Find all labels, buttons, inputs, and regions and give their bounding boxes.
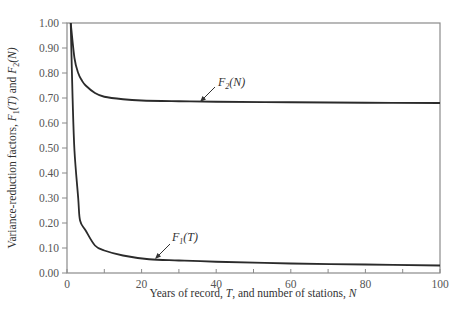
y-tick-label: 0.30 [39,192,59,204]
f1-annotation: F1(T) [155,230,198,259]
y-tick-label: 0.50 [39,142,59,154]
y-axis-label: Variance-reduction factors, F1(T) and F2… [6,47,21,248]
y-tick-label: 0.90 [39,42,59,54]
y-tick-label: 1.00 [39,17,59,29]
f2-annotation: F2(N) [200,75,245,102]
y-tick-label: 0.00 [39,267,59,279]
y-tick-label: 0.40 [39,167,59,179]
x-axis-label: Years of record, T, and number of statio… [150,287,358,300]
f2-annotation-label: F2(N) [217,75,245,91]
x-tick-label: 0 [64,278,70,290]
x-tick-label: 100 [431,278,449,290]
x-tick-label: 80 [360,278,372,290]
y-tick-label: 0.20 [39,217,59,229]
y-tick-label: 0.10 [39,242,59,254]
y-tick-label: 0.70 [39,92,59,104]
y-tick-label: 0.80 [39,67,59,79]
series-f2-line [71,23,440,103]
y-axis-ticks: 0.000.100.200.300.400.500.600.700.800.90… [39,17,67,279]
series-f1-line [71,23,440,266]
y-tick-label: 0.60 [39,117,59,129]
chart-figure: 0.000.100.200.300.400.500.600.700.800.90… [0,0,466,318]
plot-frame [67,23,440,273]
f1-annotation-label: F1(T) [171,230,198,246]
x-tick-label: 20 [136,278,148,290]
